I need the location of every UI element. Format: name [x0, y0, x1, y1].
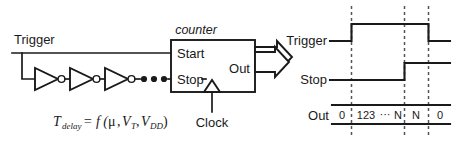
- trigger-waveform-label: Trigger: [286, 33, 327, 48]
- equation-comma-1: ,: [117, 114, 121, 129]
- out-value-cell-0: 0: [339, 109, 345, 121]
- equation-equals-f-open: = f (: [83, 114, 109, 130]
- out-value-cell-0-final: 0: [437, 109, 443, 121]
- counter-block-title: counter: [175, 23, 218, 37]
- equation-comma-2: ,: [136, 114, 140, 129]
- equation-close-paren: ): [163, 114, 168, 130]
- equation-T-subscript: delay: [62, 121, 82, 131]
- trigger-label: Trigger: [14, 32, 55, 47]
- out-waveform-label: Out: [308, 108, 329, 123]
- out-value-cell-N-first: N: [394, 109, 402, 121]
- counter-input-start-label: Start: [177, 46, 205, 61]
- clock-label: Clock: [196, 115, 229, 130]
- equation-T: T: [53, 114, 62, 129]
- out-value-cell-N-second: N: [412, 109, 420, 121]
- out-value-cell-123: 123: [357, 109, 375, 121]
- delay-equation: T delay = f ( μ , V T , V DD ): [53, 114, 168, 131]
- figure-text-layer: Trigger counter Start Stop Out Clock T d…: [0, 0, 460, 142]
- equation-VDD-subscript: DD: [149, 121, 163, 131]
- counter-output-label: Out: [229, 61, 250, 76]
- stop-waveform-label: Stop: [300, 72, 327, 87]
- out-value-cell-ellipsis: ···: [380, 108, 391, 120]
- equation-mu: μ: [108, 114, 116, 129]
- ring-oscillator-counter-figure: Trigger counter Start Stop Out Clock T d…: [0, 0, 460, 142]
- counter-input-stop-label: Stop: [177, 72, 204, 87]
